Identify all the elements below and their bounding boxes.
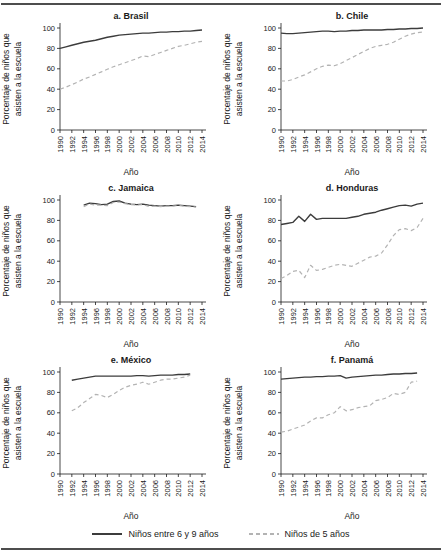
svg-text:80: 80 — [47, 44, 55, 53]
svg-text:2004: 2004 — [139, 308, 148, 325]
svg-text:40: 40 — [47, 429, 55, 438]
svg-text:20: 20 — [268, 105, 276, 114]
svg-text:20: 20 — [47, 449, 55, 458]
svg-text:1992: 1992 — [68, 480, 77, 497]
svg-text:100: 100 — [42, 368, 55, 377]
svg-text:1998: 1998 — [324, 136, 333, 153]
series-dashed — [281, 32, 423, 81]
subplot-brasil: a. BrasilPorcentaje de niños queasisten … — [0, 8, 221, 180]
subplot-mexico: e. MéxicoPorcentaje de niños queasisten … — [0, 352, 221, 524]
svg-text:40: 40 — [268, 85, 276, 94]
svg-text:0: 0 — [51, 298, 55, 307]
svg-text:2012: 2012 — [186, 308, 195, 325]
subplot-chile: b. ChilePorcentaje de niños queasisten a… — [221, 8, 442, 180]
svg-text:100: 100 — [263, 196, 276, 205]
svg-text:2012: 2012 — [186, 136, 195, 153]
svg-text:2014: 2014 — [419, 480, 428, 497]
svg-text:1996: 1996 — [313, 308, 322, 325]
x-axis-label: Año — [123, 339, 138, 349]
series-dashed — [281, 381, 417, 432]
top-rule — [1, 3, 441, 5]
svg-text:2002: 2002 — [127, 480, 136, 497]
svg-text:1998: 1998 — [103, 136, 112, 153]
dashed-line-marker — [249, 533, 279, 535]
x-axis-label: Año — [344, 511, 359, 521]
svg-text:2006: 2006 — [372, 136, 381, 153]
solid-line-marker — [92, 533, 122, 535]
figure: a. BrasilPorcentaje de niños queasisten … — [0, 3, 442, 550]
svg-text:60: 60 — [47, 236, 55, 245]
svg-text:20: 20 — [268, 449, 276, 458]
svg-text:1996: 1996 — [92, 308, 101, 325]
subplot-title: b. Chile — [336, 11, 369, 21]
svg-text:2012: 2012 — [407, 480, 416, 497]
bottom-rule — [1, 548, 441, 550]
svg-text:100: 100 — [263, 24, 276, 33]
subplot-jamaica: c. JamaicaPorcentaje de niños queasisten… — [0, 180, 221, 352]
svg-text:2010: 2010 — [395, 308, 404, 325]
subplot-title: a. Brasil — [113, 11, 148, 21]
svg-text:80: 80 — [268, 388, 276, 397]
svg-text:2000: 2000 — [336, 136, 345, 153]
svg-text:1990: 1990 — [277, 308, 286, 325]
svg-text:2008: 2008 — [163, 480, 172, 497]
svg-text:1990: 1990 — [56, 308, 65, 325]
svg-text:2002: 2002 — [348, 136, 357, 153]
y-axis-label: asisten a la escuela — [13, 41, 23, 116]
svg-text:40: 40 — [47, 257, 55, 266]
svg-text:2000: 2000 — [336, 480, 345, 497]
svg-text:2004: 2004 — [139, 480, 148, 497]
legend: Niños entre 6 y 9 años Niños de 5 años — [0, 526, 442, 542]
svg-text:1994: 1994 — [301, 136, 310, 153]
svg-text:1992: 1992 — [289, 308, 298, 325]
y-axis-label: Porcentaje de niños que — [222, 205, 232, 297]
subplot-title: d. Honduras — [326, 183, 379, 193]
svg-text:1992: 1992 — [68, 308, 77, 325]
subplot-title: f. Panamá — [331, 355, 375, 365]
subplot-title: e. México — [111, 355, 152, 365]
svg-text:2000: 2000 — [336, 308, 345, 325]
svg-text:1998: 1998 — [324, 480, 333, 497]
svg-text:2006: 2006 — [372, 308, 381, 325]
svg-text:1998: 1998 — [103, 480, 112, 497]
y-axis-label: asisten a la escuela — [234, 385, 244, 460]
svg-text:1994: 1994 — [80, 308, 89, 325]
svg-text:2014: 2014 — [198, 308, 207, 325]
svg-text:2008: 2008 — [163, 308, 172, 325]
svg-text:2002: 2002 — [348, 480, 357, 497]
y-axis-label: asisten a la escuela — [234, 41, 244, 116]
svg-text:2010: 2010 — [174, 308, 183, 325]
svg-text:1994: 1994 — [301, 308, 310, 325]
svg-text:1992: 1992 — [289, 480, 298, 497]
svg-text:2006: 2006 — [372, 480, 381, 497]
y-axis-label: Porcentaje de niños que — [222, 377, 232, 469]
subplot-grid: a. BrasilPorcentaje de niños queasisten … — [0, 8, 442, 524]
svg-text:80: 80 — [268, 216, 276, 225]
svg-text:60: 60 — [268, 236, 276, 245]
svg-text:1996: 1996 — [313, 136, 322, 153]
x-axis-label: Año — [344, 339, 359, 349]
legend-item-solid: Niños entre 6 y 9 años — [92, 529, 218, 539]
svg-text:2012: 2012 — [407, 136, 416, 153]
svg-text:60: 60 — [47, 64, 55, 73]
svg-text:2014: 2014 — [198, 480, 207, 497]
series-solid — [84, 201, 196, 207]
svg-text:2006: 2006 — [151, 136, 160, 153]
svg-text:2014: 2014 — [419, 136, 428, 153]
svg-text:2010: 2010 — [174, 480, 183, 497]
svg-text:2012: 2012 — [407, 308, 416, 325]
svg-text:1996: 1996 — [92, 136, 101, 153]
x-axis-label: Año — [123, 167, 138, 177]
svg-text:2000: 2000 — [115, 136, 124, 153]
svg-text:2002: 2002 — [127, 136, 136, 153]
y-axis-label: Porcentaje de niños que — [1, 205, 11, 297]
legend-label-dashed: Niños de 5 años — [285, 529, 350, 539]
subplot-title: c. Jamaica — [108, 183, 155, 193]
svg-text:2014: 2014 — [198, 136, 207, 153]
svg-text:1990: 1990 — [56, 480, 65, 497]
svg-text:2000: 2000 — [115, 308, 124, 325]
y-axis-label: asisten a la escuela — [13, 213, 23, 288]
svg-text:1996: 1996 — [313, 480, 322, 497]
svg-text:2008: 2008 — [384, 308, 393, 325]
series-solid — [281, 203, 423, 224]
